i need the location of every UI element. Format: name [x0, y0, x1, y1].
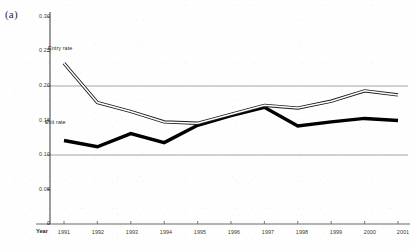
plot-area [0, 0, 415, 250]
figure-panel: (a) 0.30 0.25 0.20 0.15 0.10 0.05 0 Year… [0, 0, 415, 250]
series-group [64, 63, 398, 146]
entry-rate-line-inner [64, 63, 398, 123]
